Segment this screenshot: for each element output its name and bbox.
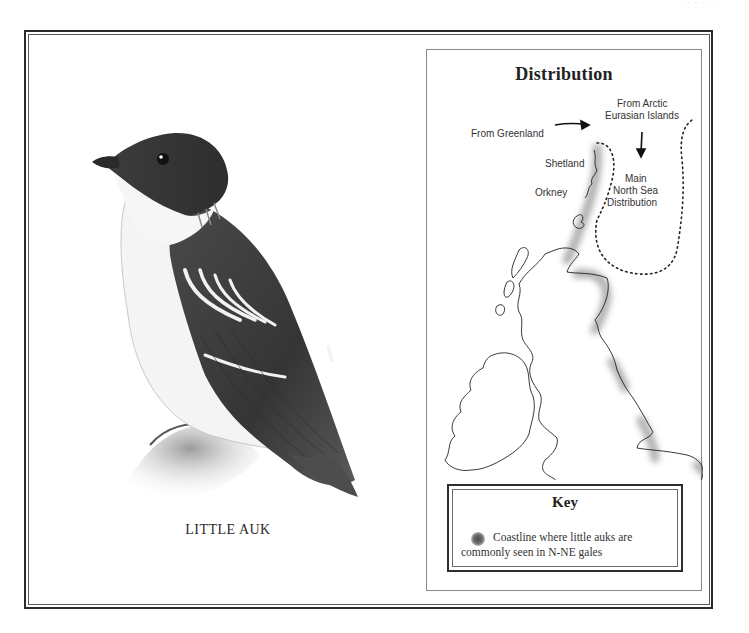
little-auk-illustration	[90, 115, 370, 515]
western-isles-outline	[496, 248, 529, 316]
key-title: Key	[449, 494, 681, 511]
ireland-outline	[445, 353, 534, 471]
map-key-box: Key Coastline where little auks are comm…	[447, 484, 683, 572]
label-orkney: Orkney	[535, 187, 567, 199]
distribution-map-panel: Distribution	[426, 49, 702, 591]
label-from-arctic-line2: Eurasian Islands	[605, 110, 679, 122]
label-from-greenland: From Greenland	[471, 128, 544, 140]
bird-panel: LITTLE AUK	[40, 60, 420, 560]
label-from-arctic-line1: From Arctic	[617, 98, 668, 110]
illustration-caption: LITTLE AUK	[130, 522, 326, 538]
label-main-line3: Distribution	[607, 197, 657, 209]
arrow-from-greenland-icon	[555, 121, 589, 129]
key-description: Coastline where little auks are commonly…	[461, 530, 677, 560]
page-running-head: · · · · · ·	[640, 0, 720, 7]
label-shetland: Shetland	[545, 158, 584, 170]
arrow-from-arctic-icon	[637, 132, 645, 157]
label-main-line2: North Sea	[613, 185, 658, 197]
label-main-line1: Main	[625, 173, 647, 185]
